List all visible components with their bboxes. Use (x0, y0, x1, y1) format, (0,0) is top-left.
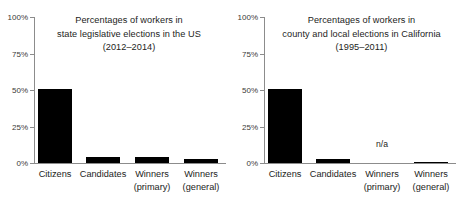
y-axis-line-right (264, 17, 265, 163)
x-category-label-left-winners-general-line2: (general) (183, 181, 220, 194)
bar-right-winners-general (414, 162, 448, 163)
y-tick-right-50 (260, 90, 264, 91)
x-category-label-left-citizens: Citizens (39, 168, 72, 181)
bar-left-citizens (38, 89, 72, 163)
plot-area-right: 0% 25% 50% 75% 100% n/a Citizens Candida… (264, 17, 456, 163)
bar-right-winners-primary-na-label: n/a (376, 139, 388, 149)
y-tick-right-0 (260, 163, 264, 164)
x-category-label-left-candidates: Candidates (80, 168, 126, 181)
x-category-label-left-citizens-line1: Citizens (39, 169, 72, 179)
x-category-label-right-winners-primary-line1: Winners (365, 169, 399, 179)
x-category-label-right-winners-general-line2: (general) (413, 181, 450, 194)
chart-panel-state-legislative: Percentages of workers in state legislat… (0, 0, 232, 206)
x-category-label-right-citizens-line1: Citizens (269, 169, 302, 179)
y-tick-right-75 (260, 54, 264, 55)
y-tick-label-left-0: 0% (16, 159, 28, 168)
x-category-label-left-winners-general-line1: Winners (184, 169, 218, 179)
x-axis-line-right (264, 163, 456, 164)
y-tick-label-left-50: 50% (12, 86, 28, 95)
plot-area-left: 0% 25% 50% 75% 100% Citizens Candidates … (34, 17, 226, 163)
y-tick-label-right-0: 0% (246, 159, 258, 168)
y-axis-line-left (34, 17, 35, 163)
x-category-label-right-winners-general-line1: Winners (414, 169, 448, 179)
bar-left-winners-primary (135, 157, 169, 163)
two-panel-bar-chart-figure: Percentages of workers in state legislat… (0, 0, 465, 206)
y-tick-left-50 (30, 90, 34, 91)
x-axis-line-left (34, 163, 226, 164)
x-category-label-right-winners-general: Winners (general) (413, 168, 450, 193)
x-category-label-left-winners-general: Winners (general) (183, 168, 220, 193)
y-tick-label-right-75: 75% (242, 49, 258, 58)
x-category-label-left-candidates-line1: Candidates (80, 169, 126, 179)
bar-left-winners-general (184, 159, 218, 163)
y-tick-right-25 (260, 127, 264, 128)
x-category-label-right-candidates: Candidates (310, 168, 356, 181)
bar-right-candidates (316, 159, 350, 163)
y-tick-label-left-25: 25% (12, 122, 28, 131)
y-tick-label-right-100: 100% (238, 13, 258, 22)
y-tick-label-left-100: 100% (8, 13, 28, 22)
x-category-label-right-winners-primary: Winners (primary) (364, 168, 401, 193)
bar-right-citizens (268, 89, 302, 163)
y-tick-label-right-25: 25% (242, 122, 258, 131)
y-tick-left-25 (30, 127, 34, 128)
x-category-label-left-winners-primary-line2: (primary) (134, 181, 171, 194)
chart-panel-county-local: Percentages of workers in county and loc… (232, 0, 465, 206)
x-category-label-right-candidates-line1: Candidates (310, 169, 356, 179)
y-tick-label-right-50: 50% (242, 86, 258, 95)
x-category-label-left-winners-primary: Winners (primary) (134, 168, 171, 193)
y-tick-left-0 (30, 163, 34, 164)
y-tick-left-75 (30, 54, 34, 55)
y-tick-label-left-75: 75% (12, 49, 28, 58)
y-tick-left-100 (30, 17, 34, 18)
bar-left-candidates (86, 157, 120, 163)
y-tick-right-100 (260, 17, 264, 18)
x-category-label-right-citizens: Citizens (269, 168, 302, 181)
x-category-label-right-winners-primary-line2: (primary) (364, 181, 401, 194)
x-category-label-left-winners-primary-line1: Winners (135, 169, 169, 179)
